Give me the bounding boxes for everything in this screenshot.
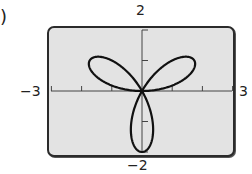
y-max-label: 2 [136, 3, 145, 17]
y-min-label: −2 [127, 158, 148, 172]
x-max-label: 3 [239, 84, 248, 98]
x-min-label: −3 [20, 84, 41, 98]
